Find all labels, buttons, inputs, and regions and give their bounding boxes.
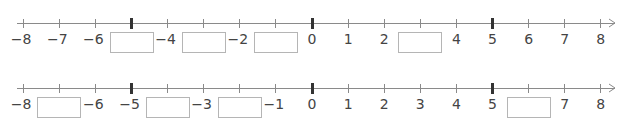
major-tick xyxy=(491,83,494,94)
tick-label: 7 xyxy=(550,31,580,47)
major-tick xyxy=(491,18,494,29)
tick-label: −6 xyxy=(78,31,108,47)
tick-label: −8 xyxy=(6,31,36,47)
tick-label: 5 xyxy=(478,31,508,47)
tick xyxy=(384,84,385,93)
tick xyxy=(564,84,565,93)
tick-label: −6 xyxy=(78,96,108,112)
tick xyxy=(95,19,96,28)
tick xyxy=(600,19,601,28)
number-line-1: −8−7−6−4−201245678 xyxy=(0,0,629,60)
tick-label: 0 xyxy=(297,31,327,47)
tick xyxy=(600,84,601,93)
answer-box[interactable] xyxy=(218,97,262,118)
tick xyxy=(348,19,349,28)
answer-box[interactable] xyxy=(37,97,81,118)
tick xyxy=(23,84,24,93)
tick-label: −8 xyxy=(6,96,36,112)
tick-label: 2 xyxy=(369,96,399,112)
tick xyxy=(384,19,385,28)
tick xyxy=(203,84,204,93)
answer-box[interactable] xyxy=(254,32,298,53)
axis-line xyxy=(17,23,615,24)
answer-box[interactable] xyxy=(507,97,551,118)
tick-label: −2 xyxy=(223,31,253,47)
tick xyxy=(23,19,24,28)
tick xyxy=(420,84,421,93)
major-tick xyxy=(311,83,314,94)
tick-label: 6 xyxy=(514,31,544,47)
tick xyxy=(275,84,276,93)
tick-label: −3 xyxy=(187,96,217,112)
answer-box[interactable] xyxy=(110,32,154,53)
tick-label: −1 xyxy=(259,96,289,112)
answer-box[interactable] xyxy=(146,97,190,118)
tick-label: 5 xyxy=(478,96,508,112)
number-line-2: −8−6−5−3−101234578 xyxy=(0,65,629,124)
tick-label: 2 xyxy=(369,31,399,47)
tick xyxy=(239,19,240,28)
tick xyxy=(420,19,421,28)
tick xyxy=(167,84,168,93)
axis-line xyxy=(17,88,615,89)
tick xyxy=(275,19,276,28)
tick-label: 1 xyxy=(333,31,363,47)
tick-label: −5 xyxy=(115,96,145,112)
tick xyxy=(456,84,457,93)
tick xyxy=(528,84,529,93)
tick-label: 8 xyxy=(586,31,616,47)
tick-label: 0 xyxy=(297,96,327,112)
tick xyxy=(167,19,168,28)
major-tick xyxy=(311,18,314,29)
tick-label: −4 xyxy=(151,31,181,47)
tick-label: 7 xyxy=(550,96,580,112)
tick xyxy=(203,19,204,28)
answer-box[interactable] xyxy=(398,32,442,53)
tick-label: −7 xyxy=(42,31,72,47)
answer-box[interactable] xyxy=(182,32,226,53)
tick-label: 3 xyxy=(405,96,435,112)
tick-label: 1 xyxy=(333,96,363,112)
tick xyxy=(59,19,60,28)
tick xyxy=(528,19,529,28)
major-tick xyxy=(130,18,133,29)
major-tick xyxy=(130,83,133,94)
tick-label: 4 xyxy=(441,96,471,112)
arrow-right-icon xyxy=(607,18,617,28)
tick xyxy=(59,84,60,93)
tick xyxy=(564,19,565,28)
tick xyxy=(239,84,240,93)
tick xyxy=(456,19,457,28)
tick-label: 4 xyxy=(441,31,471,47)
arrow-right-icon xyxy=(607,83,617,93)
tick xyxy=(348,84,349,93)
tick-label: 8 xyxy=(586,96,616,112)
tick xyxy=(95,84,96,93)
